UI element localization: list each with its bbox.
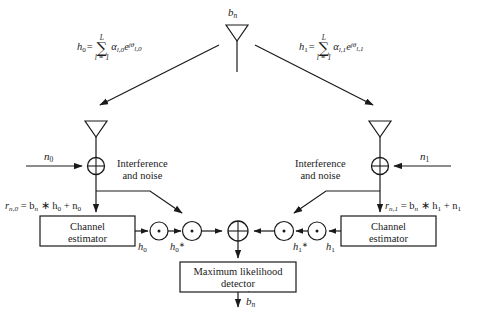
rx-antenna-1 bbox=[369, 121, 391, 158]
rx-antenna-0 bbox=[85, 121, 107, 158]
rx1-branch-to-multiplier bbox=[294, 191, 380, 213]
equation-h1: h1 =L∑l = 1αl,1ejθl,1 bbox=[299, 34, 364, 62]
signal-label-h1: h1 bbox=[326, 241, 335, 254]
channel-estimator-1-label: Channel estimator bbox=[341, 221, 436, 245]
rx0-branch-to-multiplier bbox=[96, 191, 182, 213]
tx-antenna bbox=[226, 25, 248, 72]
adder-1 bbox=[372, 158, 389, 175]
output-label: b˙ n bbox=[246, 295, 255, 309]
received-signal-equation-0: rn,0 = bn ∗ h0 + n0 bbox=[5, 200, 81, 213]
interference-noise-label-1: Interference and noise bbox=[295, 158, 346, 182]
conjugate-0 bbox=[150, 222, 168, 240]
ml-detector-label: Maximum likelihood detector bbox=[180, 266, 296, 290]
signal-label-h0-conj: h0∗ bbox=[170, 241, 185, 254]
conjugate-1 bbox=[308, 222, 326, 240]
tx-antenna-label: bn bbox=[228, 6, 237, 20]
equation-h0: h0 =L∑l = 1αl,0ejθl,0 bbox=[77, 34, 142, 62]
received-signal-equation-1: rn,1 = bn ∗ h1 + n1 bbox=[385, 200, 461, 213]
noise-label-0: n0 bbox=[44, 150, 53, 164]
multiplier-1 bbox=[275, 222, 294, 241]
multiplier-0 bbox=[183, 222, 202, 241]
adder-0 bbox=[88, 158, 105, 175]
signal-label-h0: h0 bbox=[138, 241, 147, 254]
interference-noise-label-0: Interference and noise bbox=[117, 158, 168, 182]
channel-estimator-0-label: Channel estimator bbox=[40, 221, 135, 245]
noise-label-1: n1 bbox=[420, 150, 429, 164]
signal-label-h1-conj: h1∗ bbox=[293, 241, 308, 254]
combiner bbox=[228, 221, 248, 241]
